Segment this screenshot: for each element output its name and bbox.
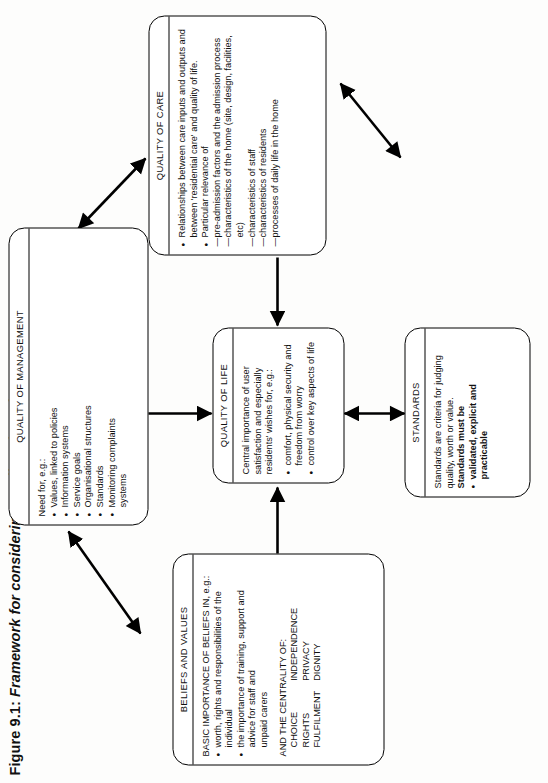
care-dash-4: characteristics of residents <box>257 24 269 246</box>
care-dash-3: characteristics of staff <box>246 24 258 246</box>
management-bullet-5: Standards <box>94 236 106 516</box>
management-bullet-3: Service goals <box>71 236 83 516</box>
box-beliefs-and-values[interactable]: BELIEFS AND VALUES BASIC IMPORTANCE OF B… <box>172 553 384 765</box>
box-quality-of-care[interactable]: QUALITY OF CARE Relationships between ca… <box>148 15 326 255</box>
box-beliefs-body: BASIC IMPORTANCE OF BELIEFS IN, e.g.: wo… <box>193 554 329 764</box>
care-dash-1: pre-admission factors and the admission … <box>211 24 223 246</box>
centrality-c1-3: FULFILMENT <box>311 690 323 747</box>
care-dash-5: processes of daily life in the home <box>269 24 281 246</box>
box-management-body: Need for, e.g.: Values, linked to polici… <box>29 228 135 524</box>
box-quality-of-management[interactable]: QUALITY OF MANAGEMENT Need for, e.g.: Va… <box>8 227 148 525</box>
standards-line-1: Standards are criteria for judging <box>432 336 444 488</box>
box-beliefs-title: BELIEFS AND VALUES <box>173 554 193 764</box>
centrality-c2-1: INDEPENDENCE <box>288 607 300 680</box>
arrow-beliefs-management <box>68 531 140 633</box>
arrow-management-care <box>78 158 145 228</box>
life-bullet-2: control over key aspects of life <box>305 336 317 474</box>
box-life-body: Central importance of user satisfaction … <box>233 328 323 482</box>
centrality-c2-3: DIGNITY <box>311 607 323 680</box>
box-standards-title: STANDARDS <box>405 328 425 496</box>
beliefs-bullet-2: the importance of training, support and … <box>235 562 258 756</box>
life-lead-2: residents' wishes for, e.g.: <box>263 336 275 474</box>
arrow-standards-care <box>340 83 400 157</box>
beliefs-centrality-col2: INDEPENDENCE PRIVACY DIGNITY <box>288 607 323 680</box>
box-quality-of-life[interactable]: QUALITY OF LIFE Central importance of us… <box>212 327 344 483</box>
management-bullet-4: Organisational structures <box>82 236 94 516</box>
beliefs-bullet-1: worth, rights and responsibilities of th… <box>212 562 235 756</box>
management-bullet-2: Information systems <box>59 236 71 516</box>
care-bullet-1-cont: between 'residential care' and quality o… <box>188 24 200 246</box>
beliefs-centrality-columns: CHOICE RIGHTS FULFILMENT INDEPENDENCE PR… <box>288 562 323 756</box>
care-bullet-2: Particular relevance of <box>199 24 211 246</box>
management-bullet-1: Values, linked to policies <box>48 236 60 516</box>
standards-bullet-1: validated, explicit and practicable <box>467 336 490 488</box>
centrality-c1-1: CHOICE <box>288 690 300 747</box>
beliefs-centrality-lead: AND THE CENTRALITY OF: <box>277 562 289 756</box>
box-management-title: QUALITY OF MANAGEMENT <box>9 228 29 524</box>
centrality-c1-2: RIGHTS <box>300 690 312 747</box>
care-bullet-1: Relationships between care inputs and ou… <box>176 24 188 246</box>
management-lead: Need for, e.g.: <box>36 236 48 516</box>
box-standards-body: Standards are criteria for judging quali… <box>425 328 496 496</box>
standards-line-3: Standards must be <box>455 336 467 488</box>
life-lead-1: Central importance of user satisfaction … <box>240 336 263 474</box>
life-bullet-1: comfort, physical security and freedom f… <box>282 336 305 474</box>
box-care-body: Relationships between care inputs and ou… <box>169 16 286 254</box>
box-life-title: QUALITY OF LIFE <box>213 328 233 482</box>
management-bullet-6: Monitoring complaints <box>106 236 118 516</box>
figure-page: Figure 9.1: Framework for considering qu… <box>0 0 548 783</box>
beliefs-centrality-col1: CHOICE RIGHTS FULFILMENT <box>288 690 323 747</box>
centrality-c2-2: PRIVACY <box>300 607 312 680</box>
box-care-title: QUALITY OF CARE <box>149 16 169 254</box>
beliefs-lead: BASIC IMPORTANCE OF BELIEFS IN, e.g.: <box>200 562 212 756</box>
diagram-canvas: Figure 9.1: Framework for considering qu… <box>0 0 548 783</box>
standards-line-2: quality, worth or value. <box>444 336 456 488</box>
care-dash-2: characteristics of the home (site, desig… <box>222 24 245 246</box>
box-standards[interactable]: STANDARDS Standards are criteria for jud… <box>404 327 530 497</box>
beliefs-bullet-2-cont: unpaid carers <box>258 562 270 756</box>
management-bullet-6-cont: systems <box>117 236 129 516</box>
